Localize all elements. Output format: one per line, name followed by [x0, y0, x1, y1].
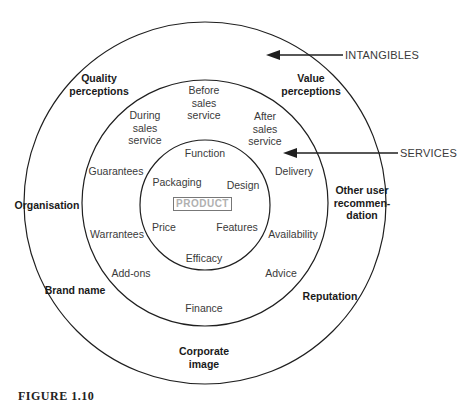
label-quality-perceptions: Quality perceptions [69, 72, 129, 97]
label-warrantees: Warrantees [90, 228, 144, 241]
label-features: Features [216, 221, 257, 234]
product-box: PRODUCT [173, 197, 232, 211]
label-efficacy: Efficacy [186, 252, 223, 265]
label-finance: Finance [185, 302, 222, 315]
label-function: Function [185, 147, 225, 160]
figure-caption: FIGURE 1.10 [18, 389, 94, 404]
label-design: Design [227, 179, 260, 192]
label-before-sales-service: Before sales service [187, 84, 220, 122]
label-other-user-recommendation: Other user recommen- dation [334, 184, 391, 222]
label-after-sales-service: After sales service [248, 110, 281, 148]
label-corporate-image: Corporate image [179, 345, 229, 370]
label-price: Price [152, 221, 176, 234]
label-availability: Availability [268, 228, 317, 241]
services-arrow [283, 148, 398, 158]
label-add-ons: Add-ons [111, 267, 150, 280]
label-advice: Advice [265, 267, 297, 280]
label-value-perceptions: Value perceptions [281, 72, 341, 97]
label-brand-name: Brand name [45, 284, 106, 297]
label-packaging: Packaging [152, 176, 201, 189]
label-guarantees: Guarantees [89, 165, 144, 178]
label-organisation: Organisation [15, 199, 80, 212]
label-reputation: Reputation [303, 290, 358, 303]
services-label: SERVICES [400, 147, 457, 159]
label-during-sales-service: During sales service [128, 109, 161, 147]
intangibles-label: INTANGIBLES [345, 49, 419, 61]
label-delivery: Delivery [275, 165, 313, 178]
